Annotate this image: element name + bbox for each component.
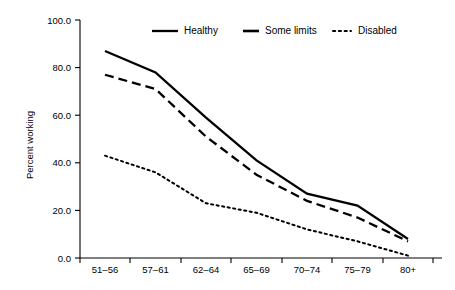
y-tick-label-0: 0.0 xyxy=(58,253,71,264)
legend-label-some-limits: Some limits xyxy=(265,25,317,36)
x-tick-label-62-64: 62–64 xyxy=(193,264,219,275)
x-tick-label-75-79: 75–79 xyxy=(344,264,370,275)
x-tick-label-65-69: 65–69 xyxy=(243,264,269,275)
series-line-disabled xyxy=(105,156,408,256)
x-tick-label-57-61: 57–61 xyxy=(142,264,168,275)
y-tick-label-60: 60.0 xyxy=(53,110,72,121)
series-line-healthy xyxy=(105,51,408,239)
x-tick-label-70-74: 70–74 xyxy=(294,264,320,275)
y-tick-label-20: 20.0 xyxy=(53,205,72,216)
line-chart: 100.0 80.0 60.0 40.0 20.0 0.0 Percent wo… xyxy=(0,0,455,290)
chart-figure: 100.0 80.0 60.0 40.0 20.0 0.0 Percent wo… xyxy=(0,0,455,290)
x-tick-label-80plus: 80+ xyxy=(400,264,417,275)
y-tick-label-40: 40.0 xyxy=(53,157,72,168)
y-tick-label-100: 100.0 xyxy=(47,15,71,26)
series-line-some-limits xyxy=(105,75,408,242)
chart-legend: Healthy Some limits Disabled xyxy=(152,25,397,36)
y-axis-title: Percent working xyxy=(24,111,35,179)
legend-label-disabled: Disabled xyxy=(358,25,397,36)
legend-label-healthy: Healthy xyxy=(184,25,218,36)
x-tick-label-51-56: 51–56 xyxy=(92,264,118,275)
y-tick-label-80: 80.0 xyxy=(53,62,72,73)
y-tick-marks xyxy=(75,20,80,258)
x-tick-marks xyxy=(80,258,433,263)
